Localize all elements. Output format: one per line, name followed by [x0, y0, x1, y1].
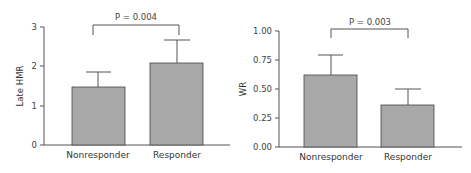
y-axis-label: WR — [238, 82, 248, 96]
bar-responder — [150, 63, 203, 145]
svg-text:3: 3 — [32, 22, 37, 32]
category-label: Responder — [384, 152, 432, 162]
svg-text:0.50: 0.50 — [253, 84, 272, 94]
p-value: P = 0.003 — [349, 17, 391, 27]
y-axis-label: Late HMR — [15, 65, 25, 106]
category-label: Nonresponder — [66, 150, 130, 160]
p-value: P = 0.004 — [115, 12, 157, 22]
y-ticks: 0.00 0.25 0.50 0.75 1.00 — [253, 26, 279, 152]
bar-nonresponder — [72, 87, 125, 145]
chart-wr: WR 0.00 0.25 0.50 0.75 1.00 P = 0.003 No… — [238, 17, 462, 162]
category-label: Responder — [153, 150, 201, 160]
svg-text:0.00: 0.00 — [253, 142, 272, 152]
svg-text:1: 1 — [32, 101, 37, 111]
chart-late-hmr: Late HMR 0 1 2 3 P = 0.004 Nonresponder … — [15, 12, 230, 160]
svg-text:2: 2 — [32, 61, 37, 71]
svg-text:0: 0 — [32, 140, 37, 150]
bar-responder — [381, 105, 434, 147]
charts-canvas: Late HMR 0 1 2 3 P = 0.004 Nonresponder … — [0, 0, 471, 173]
category-label: Nonresponder — [299, 152, 363, 162]
bar-nonresponder — [304, 75, 357, 147]
significance-bracket — [331, 29, 408, 38]
y-ticks: 0 1 2 3 — [32, 22, 44, 150]
svg-text:0.25: 0.25 — [253, 113, 272, 123]
svg-text:0.75: 0.75 — [253, 55, 272, 65]
svg-text:1.00: 1.00 — [253, 26, 272, 36]
significance-bracket — [93, 25, 179, 35]
